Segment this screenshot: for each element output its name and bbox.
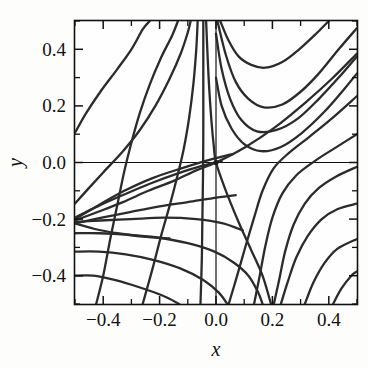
y-tick-label: 0.4 — [42, 39, 66, 60]
y-tick-label: −0.4 — [32, 265, 67, 286]
y-tick-label: 0.0 — [42, 152, 66, 173]
x-tick-label: −0.4 — [86, 309, 121, 330]
saddle-point-marker — [213, 160, 218, 165]
phase-portrait-chart: −0.4−0.20.00.20.4 −0.4−0.20.00.20.4 x y — [0, 0, 368, 368]
x-tick-label: −0.2 — [142, 309, 176, 330]
y-axis-label: y — [4, 158, 27, 169]
x-tick-labels: −0.4−0.20.00.20.4 — [86, 309, 341, 330]
x-tick-label: 0.4 — [317, 309, 341, 330]
x-tick-label: 0.0 — [204, 309, 228, 330]
figure-container: −0.4−0.20.00.20.4 −0.4−0.20.00.20.4 x y — [0, 0, 368, 368]
y-tick-labels: −0.4−0.20.00.20.4 — [32, 39, 67, 286]
y-tick-label: −0.2 — [32, 209, 66, 230]
x-axis-label: x — [211, 338, 221, 360]
x-tick-label: 0.2 — [261, 309, 285, 330]
y-tick-label: 0.2 — [42, 95, 66, 116]
